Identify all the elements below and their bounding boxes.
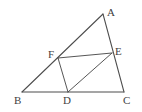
vertex-label-A: A <box>107 7 115 18</box>
segment-DE <box>68 53 112 92</box>
segment-BA <box>22 14 103 92</box>
segment-FE <box>58 53 112 58</box>
segment-FD <box>58 58 68 92</box>
vertex-label-B: B <box>14 95 21 106</box>
vertex-label-E: E <box>115 46 122 57</box>
vertex-label-F: F <box>48 49 54 60</box>
geometry-figure: A B C D E F <box>0 0 142 112</box>
vertex-label-C: C <box>123 95 130 106</box>
vertex-label-D: D <box>63 95 71 106</box>
